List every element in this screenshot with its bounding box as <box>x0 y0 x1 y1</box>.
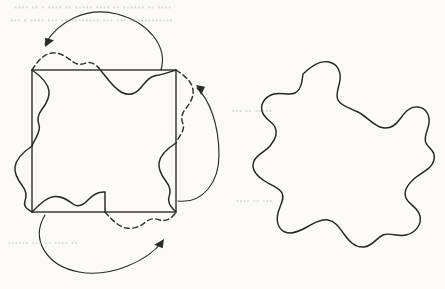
ghost-text-line-3: ••• •• ••••• <box>232 106 272 116</box>
right-panel-resulting-tile <box>253 62 434 247</box>
bottom-edge-dashed-outward-curve <box>105 212 176 228</box>
ghost-text-line-2: ••• • •••• ••• •• •••••••• ••• ••• •••••… <box>10 16 173 26</box>
top-edge-solid-inward-curve <box>101 70 177 94</box>
ghost-text-line-1: •••• •• • •••• •• ••••• •••• •• •••••• •… <box>14 3 172 13</box>
resulting-tile-outline <box>253 62 434 247</box>
right-transfer-arrow-arc <box>178 88 219 201</box>
bottom-edge-solid-inward-curve <box>32 192 105 212</box>
left-edge-solid-inward-curve <box>32 70 49 146</box>
right-transfer-arrow <box>178 82 219 202</box>
left-edge-solid-outward-curve <box>15 146 32 212</box>
top-transfer-arrow-head <box>41 36 54 50</box>
base-square <box>32 70 176 212</box>
left-panel-square-with-deformed-edges <box>15 12 219 273</box>
ghost-text-line-4: •••• •• ••• <box>236 196 273 206</box>
ghost-text-line-5: •••••• ••• •• •••• •• <box>8 238 78 248</box>
top-edge-dashed-outward-curve <box>32 53 101 70</box>
right-edge-dashed-outward-curve <box>176 70 193 143</box>
figure-root: •••• •• • •••• •• ••••• •••• •• •••••• •… <box>0 0 445 289</box>
right-transfer-arrow-head <box>193 82 207 96</box>
right-edge-solid-inward-curve <box>159 143 176 212</box>
